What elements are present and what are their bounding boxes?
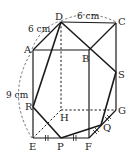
label-b: B <box>82 53 89 64</box>
label-d: D <box>55 11 63 22</box>
label-h: H <box>60 112 69 123</box>
dimension-label-da: 6 cm <box>28 24 51 34</box>
label-f: F <box>85 141 92 152</box>
label-a: A <box>23 44 32 55</box>
label-q: Q <box>103 122 111 133</box>
dimension-label-ae: 9 cm <box>6 90 29 100</box>
section-rp <box>33 107 61 138</box>
label-r: R <box>25 101 33 112</box>
label-c: C <box>118 16 126 27</box>
edge-dc <box>61 22 116 23</box>
edge-bc <box>89 23 116 50</box>
label-s: S <box>118 69 125 80</box>
label-g: G <box>118 105 126 116</box>
label-p: P <box>57 141 64 152</box>
dimension-label-dc: 6 cm <box>77 11 100 21</box>
cube-diagram: D C A B S R H G Q E P F 6 cm 6 cm 9 cm <box>0 0 133 155</box>
label-e: E <box>29 141 36 152</box>
section-dr <box>33 22 61 107</box>
